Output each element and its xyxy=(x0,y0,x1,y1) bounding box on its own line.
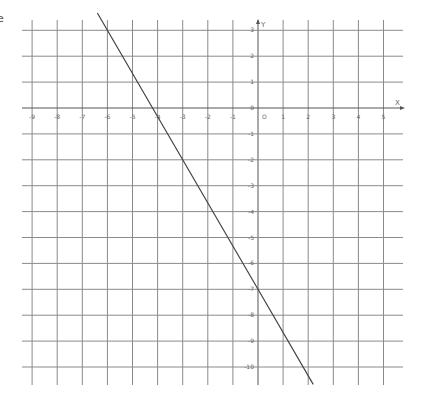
y-tick-label: -7 xyxy=(248,285,254,292)
y-tick-label: 0 xyxy=(250,104,254,111)
x-tick-label: 1 xyxy=(281,113,285,120)
y-tick-label: -10 xyxy=(244,363,254,370)
x-axis-label: X xyxy=(395,99,400,107)
x-tick-label: -2 xyxy=(205,113,211,120)
y-tick-label: -5 xyxy=(248,234,254,241)
y-tick-label: -8 xyxy=(248,311,254,318)
x-tick-label: -7 xyxy=(79,113,85,120)
x-tick-label: -1 xyxy=(230,113,236,120)
y-tick-label: -9 xyxy=(248,337,254,344)
data-line xyxy=(97,13,313,384)
x-tick-label: 3 xyxy=(331,113,335,120)
x-tick-label: -9 xyxy=(29,113,35,120)
x-tick-label: 5 xyxy=(382,113,386,120)
y-tick-label: -4 xyxy=(248,208,254,215)
x-tick-label: 2 xyxy=(306,113,310,120)
x-tick-label: -3 xyxy=(180,113,186,120)
coordinate-plane: XY -9-8-7-6-5-4-3-2-1123453210-1-2-3-4-5… xyxy=(0,0,422,405)
y-tick-label: 2 xyxy=(250,52,254,59)
origin-label: O xyxy=(262,113,267,120)
plotted-line xyxy=(97,13,313,384)
axes: XY xyxy=(256,19,405,110)
x-tick-label: -8 xyxy=(54,113,60,120)
y-axis-arrow-icon xyxy=(256,19,260,24)
y-tick-label: -2 xyxy=(248,156,254,163)
grid-lines xyxy=(22,20,403,385)
x-tick-label: 4 xyxy=(356,113,360,120)
y-axis-label: Y xyxy=(260,21,266,29)
y-tick-label: 1 xyxy=(250,78,254,85)
x-tick-label: -5 xyxy=(130,113,136,120)
x-axis-arrow-icon xyxy=(400,106,405,110)
y-tick-label: 3 xyxy=(250,26,254,33)
y-tick-label: -6 xyxy=(248,259,254,266)
x-tick-label: -6 xyxy=(104,113,110,120)
y-tick-label: -3 xyxy=(248,182,254,189)
y-tick-label: -1 xyxy=(248,130,254,137)
